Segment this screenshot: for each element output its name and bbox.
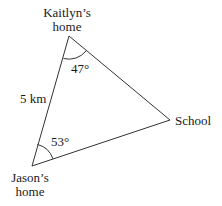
kaitlyn-label-line2: home [53, 19, 82, 34]
angle-label-jason: 53° [51, 134, 69, 149]
jason-label-line2: home [16, 184, 45, 199]
angle-arc-kaitlyn [64, 51, 87, 59]
triangle-diagram: Kaitlyn’s home 47° 5 km School 53° Jason… [0, 0, 222, 206]
angle-label-kaitlyn: 47° [71, 61, 89, 76]
school-label: School [175, 113, 212, 128]
jason-label-line1: Jason’s [11, 170, 49, 185]
kaitlyn-label-line1: Kaitlyn’s [43, 5, 91, 20]
side-label: 5 km [20, 91, 46, 106]
